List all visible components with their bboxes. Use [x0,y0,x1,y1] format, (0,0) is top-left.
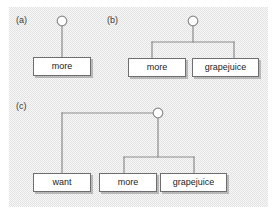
leaf-label: more [52,62,73,71]
leaf-box-b-more: more [128,58,186,77]
leaf-label: want [52,178,71,187]
leaf-label: grapejuice [205,63,247,72]
leaf-label: grapejuice [173,178,215,187]
panel-label-c: (c) [16,102,27,111]
leaf-label: more [118,178,139,187]
leaf-label: more [147,63,168,72]
panel-label-b: (b) [107,16,118,25]
node-circle-c-root [153,108,163,118]
panel-label-a: (a) [16,16,27,25]
leaf-box-c-want: want [33,173,91,192]
node-circle-b-root [188,16,198,26]
leaf-box-b-grapejuice: grapejuice [192,58,259,77]
leaf-box-c-more: more [99,173,157,192]
leaf-box-c-grapejuice: grapejuice [160,173,227,192]
leaf-box-a-more: more [33,57,91,76]
node-circle-a-root [57,16,67,26]
figure-root: (a) (b) (c) more more grapejuice want mo… [0,0,277,214]
